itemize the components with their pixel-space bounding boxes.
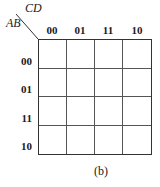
cell-10-00 (39, 126, 67, 155)
row-header-2: 11 (8, 112, 32, 124)
cell-00-00 (39, 40, 67, 69)
cell-10-01 (67, 126, 95, 155)
row-header-0: 00 (8, 55, 32, 67)
cell-01-11 (95, 69, 123, 98)
cell-00-11 (95, 40, 123, 69)
col-header-3: 10 (123, 24, 151, 36)
cell-01-10 (123, 69, 151, 98)
cell-11-00 (39, 97, 67, 126)
row-variable-label: AB (6, 16, 21, 31)
column-variable-label: CD (25, 1, 42, 16)
cell-11-10 (123, 97, 151, 126)
row-header-3: 10 (8, 140, 32, 152)
col-header-2: 11 (94, 24, 122, 36)
cell-11-11 (95, 97, 123, 126)
cell-10-10 (123, 126, 151, 155)
karnaugh-map-grid (38, 39, 152, 155)
cell-11-01 (67, 97, 95, 126)
col-header-1: 01 (66, 24, 94, 36)
cell-00-10 (123, 40, 151, 69)
cell-01-00 (39, 69, 67, 98)
figure-caption: (b) (81, 164, 121, 179)
cell-00-01 (67, 40, 95, 69)
col-header-0: 00 (38, 24, 66, 36)
cell-01-01 (67, 69, 95, 98)
cell-10-11 (95, 126, 123, 155)
row-header-1: 01 (8, 83, 32, 95)
